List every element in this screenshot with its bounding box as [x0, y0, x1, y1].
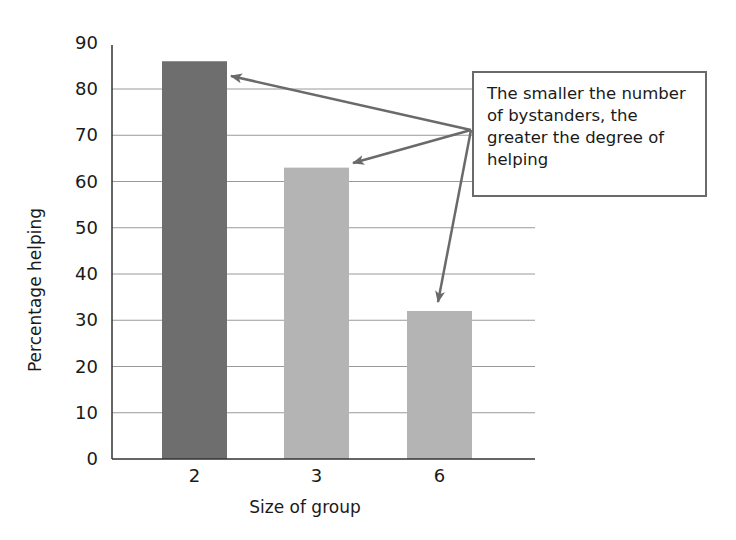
annotation-arrows	[231, 76, 471, 302]
annotation-callout-box: The smaller the number of bystanders, th…	[472, 71, 707, 197]
bar-3	[284, 168, 349, 459]
x-tick-label: 3	[297, 465, 337, 486]
y-tick-label: 0	[58, 450, 98, 468]
arrow-to-bar-6	[438, 130, 471, 302]
callout-line: greater the degree of	[487, 127, 697, 149]
y-tick-label: 90	[58, 34, 98, 52]
arrow-to-bar-2	[231, 76, 471, 130]
callout-line: The smaller the number	[487, 83, 697, 105]
x-tick-label: 2	[175, 465, 215, 486]
bar-6	[407, 311, 472, 459]
bar-chart: 0102030405060708090 236 Percentage helpi…	[0, 0, 736, 540]
y-tick-label: 20	[58, 358, 98, 376]
y-tick-label: 70	[58, 126, 98, 144]
callout-line: helping	[487, 149, 697, 171]
y-tick-label: 30	[58, 311, 98, 329]
y-tick-label: 80	[58, 80, 98, 98]
x-axis-label: Size of group	[249, 497, 360, 517]
y-axis-label: Percentage helping	[25, 208, 45, 372]
x-tick-label: 6	[420, 465, 460, 486]
y-tick-label: 60	[58, 173, 98, 191]
bar-2	[162, 61, 227, 459]
y-tick-label: 40	[58, 265, 98, 283]
y-tick-label: 50	[58, 219, 98, 237]
callout-line: of bystanders, the	[487, 105, 697, 127]
y-tick-label: 10	[58, 404, 98, 422]
